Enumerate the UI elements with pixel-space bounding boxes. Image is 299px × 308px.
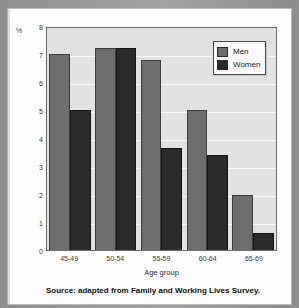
bar-women-55-59 bbox=[161, 148, 182, 250]
x-axis-tick-label: 50-54 bbox=[94, 255, 136, 267]
bar-men-65-69 bbox=[232, 195, 253, 250]
page-card: % 876543210 45-4950-5455-5960-6465-69 Ag… bbox=[8, 9, 291, 304]
bar-men-50-54 bbox=[95, 48, 116, 250]
y-axis-tick-label: 6 bbox=[28, 80, 43, 87]
bar-group bbox=[95, 28, 136, 250]
y-axis-unit-label: % bbox=[16, 27, 22, 34]
bar-women-45-49 bbox=[70, 110, 91, 250]
bar-group bbox=[49, 28, 90, 250]
bar-women-50-54 bbox=[116, 48, 137, 250]
bar-women-60-64 bbox=[207, 155, 228, 250]
legend-label: Men bbox=[233, 47, 249, 56]
y-axis-tick-label: 8 bbox=[28, 24, 43, 31]
source-caption: Source: adapted from Family and Working … bbox=[18, 286, 288, 295]
y-axis-tick-label: 4 bbox=[28, 136, 43, 143]
screenshot-root: % 876543210 45-4950-5455-5960-6465-69 Ag… bbox=[0, 0, 299, 308]
x-axis-tick-label: 45-49 bbox=[48, 255, 90, 267]
legend-label: Women bbox=[233, 60, 260, 69]
x-axis-tick-label: 65-69 bbox=[233, 255, 275, 267]
bar-chart-figure: % 876543210 45-4950-5455-5960-6465-69 Ag… bbox=[16, 14, 283, 304]
legend-item-women: Women bbox=[217, 58, 260, 71]
y-axis-tick-label: 0 bbox=[28, 248, 43, 255]
y-axis-tick-label: 1 bbox=[28, 220, 43, 227]
legend-swatch-men-icon bbox=[217, 47, 228, 57]
y-axis-tick-label: 3 bbox=[28, 164, 43, 171]
y-axis-tick-label: 5 bbox=[28, 108, 43, 115]
bar-men-55-59 bbox=[141, 60, 162, 250]
y-axis-tick-labels: 876543210 bbox=[28, 27, 43, 251]
legend: MenWomen bbox=[213, 41, 266, 75]
x-axis-tick-label: 55-59 bbox=[141, 255, 183, 267]
x-axis-title: Age group bbox=[46, 268, 277, 277]
bar-group bbox=[141, 28, 182, 250]
x-axis-tick-labels: 45-4950-5455-5960-6465-69 bbox=[46, 255, 277, 267]
x-axis-tick-label: 60-64 bbox=[187, 255, 229, 267]
bar-women-65-69 bbox=[253, 233, 274, 250]
bar-men-45-49 bbox=[49, 54, 70, 250]
bar-men-60-64 bbox=[187, 110, 208, 250]
legend-item-men: Men bbox=[217, 45, 260, 58]
y-axis-tick-label: 2 bbox=[28, 192, 43, 199]
y-axis-tick-label: 7 bbox=[28, 52, 43, 59]
legend-swatch-women-icon bbox=[217, 60, 228, 70]
